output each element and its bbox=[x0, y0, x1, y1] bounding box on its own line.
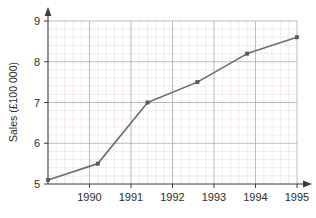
y-axis-title: Sales (£100 000) bbox=[7, 62, 19, 142]
y-tick-label-7: 7 bbox=[34, 97, 40, 109]
x-tick-label-1993: 1993 bbox=[202, 191, 226, 203]
y-tick-label-5: 5 bbox=[34, 178, 40, 190]
x-axis-arrow-icon bbox=[303, 181, 312, 188]
line-chart-figure: 9 8 7 6 5 1990 1991 1992 1993 1994 1995 … bbox=[0, 0, 316, 218]
x-tick-label-1994: 1994 bbox=[243, 191, 267, 203]
x-tick-label-1990: 1990 bbox=[77, 191, 101, 203]
y-tick-label-9: 9 bbox=[34, 15, 40, 27]
data-point bbox=[196, 81, 199, 84]
chart-canvas: 9 8 7 6 5 1990 1991 1992 1993 1994 1995 … bbox=[0, 0, 316, 218]
x-tick-label-1995: 1995 bbox=[285, 191, 309, 203]
data-point bbox=[96, 162, 99, 165]
data-point bbox=[146, 101, 149, 104]
y-tick-label-8: 8 bbox=[34, 56, 40, 68]
data-point bbox=[46, 178, 49, 181]
y-axis-tick-marks bbox=[44, 21, 48, 184]
data-point bbox=[295, 36, 298, 39]
x-axis-tick-marks bbox=[90, 184, 298, 188]
data-point bbox=[246, 52, 249, 55]
x-tick-label-1991: 1991 bbox=[119, 191, 143, 203]
y-axis-arrow-icon bbox=[45, 7, 52, 16]
x-tick-label-1992: 1992 bbox=[160, 191, 184, 203]
y-tick-label-6: 6 bbox=[34, 137, 40, 149]
